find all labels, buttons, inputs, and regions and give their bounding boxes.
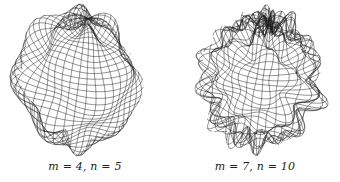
figure-panel-m7-n10: m = 7, n = 10 [170,0,340,182]
mesh-surface-plot [0,0,170,160]
figure-panel-m4-n5: m = 4, n = 5 [0,0,170,182]
mesh-surface-plot [170,0,340,160]
panel-caption: m = 7, n = 10 [170,160,340,173]
panel-caption: m = 4, n = 5 [0,160,170,173]
